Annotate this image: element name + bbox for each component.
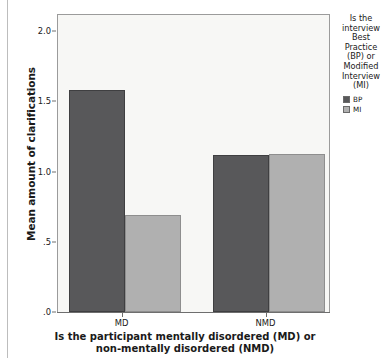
legend-item-bp[interactable]: BP	[343, 96, 388, 104]
y-tick-label-3: 1.5	[38, 96, 51, 106]
legend-entries: BPMI	[334, 96, 388, 114]
y-tick-mark-1	[52, 241, 56, 242]
bar-md-mi	[125, 215, 181, 312]
x-tick-mark-nmd	[266, 312, 267, 317]
x-tick-mark-md	[122, 312, 123, 317]
y-tick-mark-2	[52, 171, 56, 172]
x-axis-title-line2: non-mentally disordered (NMD)	[20, 343, 350, 355]
legend-title: Is theinterviewBestPractice(BP) orModifi…	[334, 14, 388, 91]
x-axis-title: Is the participant mentally disordered (…	[20, 331, 350, 355]
bars-layer	[58, 15, 329, 313]
legend-swatch-mi-icon	[343, 106, 350, 113]
y-tick-label-0: .0	[43, 307, 51, 317]
legend-label: MI	[353, 106, 361, 114]
bar-md-bp	[69, 90, 125, 312]
bar-nmd-bp	[213, 155, 269, 312]
legend-swatch-bp-icon	[343, 96, 350, 103]
x-axis-line	[57, 312, 330, 313]
legend: Is theinterviewBestPractice(BP) orModifi…	[334, 14, 388, 116]
y-tick-label-4: 2.0	[38, 26, 51, 36]
chart-figure: Mean amount of clarifications .0 .5 1.0 …	[0, 0, 390, 358]
y-tick-mark-3	[52, 101, 56, 102]
y-axis-ticks: .0 .5 1.0 1.5 2.0	[30, 0, 56, 358]
y-tick-mark-0	[52, 312, 56, 313]
x-category-label-md: MD	[115, 318, 129, 328]
bar-nmd-mi	[269, 154, 325, 312]
y-tick-mark-4	[52, 31, 56, 32]
y-tick-label-2: 1.0	[38, 167, 51, 177]
y-tick-label-1: .5	[43, 237, 51, 247]
legend-label: BP	[353, 96, 362, 104]
legend-item-mi[interactable]: MI	[343, 106, 388, 114]
legend-title-line: (MI)	[334, 81, 388, 91]
plot-area	[57, 14, 330, 313]
x-category-label-nmd: NMD	[256, 318, 276, 328]
x-axis-title-line1: Is the participant mentally disordered (…	[20, 331, 350, 343]
page-edge-rule	[7, 0, 8, 358]
